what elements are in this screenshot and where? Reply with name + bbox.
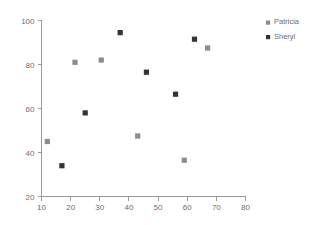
y-tick-label: 40 [26, 149, 35, 158]
x-tick-label: 70 [212, 203, 221, 212]
legend-label-sheryl: Sheryl [274, 32, 296, 41]
data-point-patricia [182, 158, 187, 163]
legend-swatch-patricia [266, 21, 270, 25]
y-tick-label: 100 [21, 17, 35, 26]
x-tick-label: 40 [124, 203, 133, 212]
y-tick-label: 60 [26, 105, 35, 114]
data-point-patricia [135, 133, 140, 138]
x-tick-label: 10 [37, 203, 46, 212]
legend: PatriciaSheryl [266, 17, 300, 41]
data-point-sheryl [173, 92, 178, 97]
data-point-patricia [99, 58, 104, 63]
data-point-sheryl [59, 163, 64, 168]
legend-label-patricia: Patricia [274, 17, 300, 26]
data-point-sheryl [118, 30, 123, 35]
y-tick-label: 80 [26, 61, 35, 70]
axis-lines [42, 21, 246, 197]
data-point-sheryl [83, 110, 88, 115]
x-tick-label: 60 [183, 203, 192, 212]
x-tick-label: 30 [95, 203, 104, 212]
data-point-sheryl [144, 70, 149, 75]
x-tick-label: 80 [241, 203, 250, 212]
y-axis-ticks: 20406080100 [21, 17, 41, 202]
data-point-patricia [205, 45, 210, 50]
data-points [45, 30, 210, 168]
data-point-patricia [45, 139, 50, 144]
legend-swatch-sheryl [266, 35, 270, 39]
data-point-sheryl [192, 37, 197, 42]
scatter-chart: 1020304050607080 20406080100 PatriciaShe… [0, 0, 323, 225]
y-tick-label: 20 [26, 193, 35, 202]
plot-area: 1020304050607080 20406080100 PatriciaShe… [0, 0, 323, 225]
x-axis-ticks: 1020304050607080 [37, 197, 250, 212]
data-point-patricia [72, 60, 77, 65]
x-tick-label: 50 [154, 203, 163, 212]
x-tick-label: 20 [66, 203, 75, 212]
